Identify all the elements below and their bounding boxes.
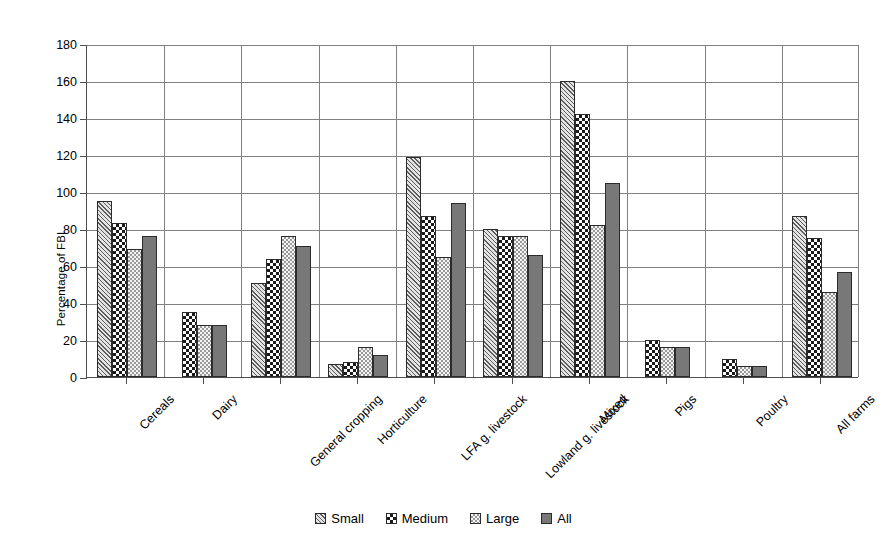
bar [528,255,543,377]
bar [451,203,466,377]
y-axis-tick [80,193,87,194]
bar [590,225,605,377]
bar [807,238,822,377]
category-separator [627,45,628,377]
bar [212,325,227,377]
bar [822,292,837,377]
bar [575,114,590,377]
x-axis-tick [589,377,590,384]
legend-swatch-small [315,513,326,524]
y-axis-tick [80,156,87,157]
chart-legend: SmallMediumLargeAll [0,512,887,525]
x-axis-label: Poultry [753,392,790,429]
y-axis-tick [80,341,87,342]
bar [792,216,807,377]
y-axis-tick [80,230,87,231]
x-axis-tick [512,377,513,384]
legend-swatch-large [470,513,481,524]
legend-label: Small [331,512,364,525]
bar [660,347,675,377]
category-separator [396,45,397,377]
x-axis-tick [203,377,204,384]
y-axis-tick-label: 0 [70,371,77,385]
x-axis-tick [743,377,744,384]
category-separator [241,45,242,377]
category-separator [782,45,783,377]
bar [343,362,358,377]
y-axis-tick [80,119,87,120]
bar [373,355,388,377]
bar [358,347,373,377]
category-separator [319,45,320,377]
x-axis-tick [666,377,667,384]
x-axis-label: General cropping [307,392,385,470]
bar [266,259,281,377]
category-separator [164,45,165,377]
bar [645,340,660,377]
x-axis-label: Pigs [672,392,699,419]
bar [296,246,311,377]
y-axis-tick-label: 80 [63,223,77,237]
bar [182,312,197,377]
x-axis-label: Cereals [137,392,177,432]
x-axis-label: LFA g. livestock [459,392,530,463]
legend-label: Medium [402,512,448,525]
y-axis-tick-label: 180 [56,38,77,52]
y-axis-tick-label: 160 [56,75,77,89]
bar [112,223,127,377]
y-axis-tick-label: 20 [63,334,77,348]
x-axis-label: Mixed [597,392,630,425]
bar [421,216,436,377]
y-axis-tick [80,378,87,379]
legend-item: Large [470,512,519,525]
bar [513,236,528,377]
x-axis-tick [280,377,281,384]
legend-item: Small [315,512,364,525]
y-axis-tick-label: 40 [63,297,77,311]
x-axis-label: Dairy [210,392,241,423]
y-axis-tick [80,304,87,305]
bar [251,283,266,377]
bar [142,236,157,377]
category-separator [705,45,706,377]
bar-chart: Percentage of FBI 0204060801001201401601… [0,0,887,558]
y-axis-tick [80,82,87,83]
y-axis-title: Percentage of FBI [55,232,67,326]
x-axis-tick [434,377,435,384]
bar [406,157,421,377]
legend-label: Large [486,512,519,525]
y-axis-tick-label: 60 [63,260,77,274]
y-axis-tick [80,267,87,268]
category-separator [858,45,859,377]
category-separator [473,45,474,377]
bar [722,359,737,378]
legend-label: All [557,512,571,525]
bar [281,236,296,377]
bar [560,81,575,377]
bar [675,347,690,377]
bar [605,183,620,377]
bar [97,201,112,377]
legend-item: All [541,512,571,525]
legend-swatch-all [541,513,552,524]
bar [498,236,513,377]
y-axis-tick [80,45,87,46]
bar [752,366,767,377]
y-axis-tick-label: 100 [56,186,77,200]
bar [837,272,852,377]
y-axis-tick-label: 140 [56,112,77,126]
bar [436,257,451,377]
bar [737,366,752,377]
bar [328,364,343,377]
x-axis-tick [820,377,821,384]
bar [197,325,212,377]
bar [483,229,498,377]
y-axis-tick-label: 120 [56,149,77,163]
legend-swatch-medium [386,513,397,524]
legend-item: Medium [386,512,448,525]
bar [127,249,142,377]
x-axis-tick [357,377,358,384]
category-separator [550,45,551,377]
x-axis-label: All farms [833,392,877,436]
x-axis-tick [126,377,127,384]
